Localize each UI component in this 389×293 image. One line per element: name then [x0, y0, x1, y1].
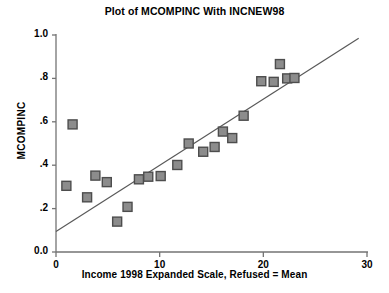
data-point — [62, 181, 71, 190]
data-point — [134, 175, 143, 184]
plot-area — [0, 0, 389, 293]
data-point — [218, 127, 227, 136]
data-point — [144, 172, 153, 181]
data-point — [199, 147, 208, 156]
data-point — [257, 77, 266, 86]
data-point — [275, 60, 284, 69]
data-point — [68, 120, 77, 129]
fit-line — [56, 38, 359, 231]
regression-line — [56, 38, 359, 231]
data-point — [269, 77, 278, 86]
data-point — [83, 193, 92, 202]
data-point — [156, 172, 165, 181]
data-point — [210, 142, 219, 151]
scatter-plot-figure: Plot of MCOMPINC With INCNEW98 MCOMPINC … — [0, 0, 389, 293]
data-point — [102, 178, 111, 187]
data-points — [62, 60, 299, 227]
data-point — [91, 171, 100, 180]
data-point — [123, 202, 132, 211]
data-point — [184, 139, 193, 148]
data-point — [113, 217, 122, 226]
data-point — [173, 160, 182, 169]
data-point — [290, 73, 299, 82]
data-point — [228, 134, 237, 143]
data-point — [239, 111, 248, 120]
